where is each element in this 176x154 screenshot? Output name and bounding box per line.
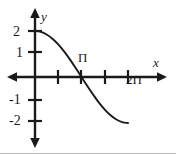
y-tick-label-minus-1: -1 [9, 93, 21, 107]
y-tick-label-minus-2: -2 [9, 114, 21, 128]
graph-figure: y x 2 1 -1 -2 Π 2Π [0, 0, 176, 154]
y-tick-label-1: 1 [16, 46, 23, 60]
x-tick-label-two-pi: 2Π [126, 73, 142, 86]
x-axis-left-arrowhead [7, 72, 17, 82]
x-axis [7, 72, 167, 82]
y-tick-label-2: 2 [13, 25, 20, 39]
x-axis-label: x [153, 56, 159, 69]
x-axis-right-arrowhead [157, 72, 167, 82]
x-tick-label-pi: Π [78, 51, 87, 64]
y-axis-bottom-arrowhead [30, 138, 40, 148]
y-axis-top-arrowhead [30, 8, 40, 18]
y-axis-label: y [41, 10, 47, 23]
coordinate-plane-svg [0, 0, 176, 154]
